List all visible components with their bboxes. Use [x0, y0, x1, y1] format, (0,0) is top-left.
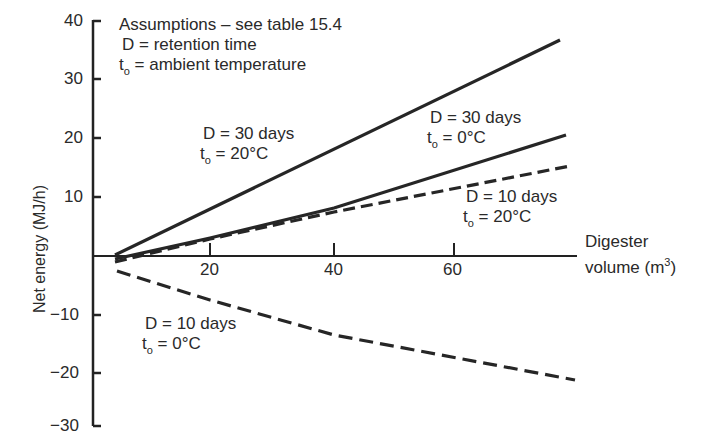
x-tick-40: 40	[324, 260, 343, 280]
label-10d-0c: D = 10 days to = 0°C	[145, 314, 236, 355]
y-tick-minus-20: −20	[50, 363, 79, 383]
y-tick-30: 30	[64, 69, 83, 89]
y-tick-20: 20	[64, 128, 83, 148]
x-axis-label-line2: volume (m	[585, 258, 664, 277]
assumptions-note: Assumptions – see table 15.4 D = retenti…	[119, 15, 342, 76]
label-30d-0c: D = 30 days to = 0°C	[430, 108, 521, 149]
x-axis-label-end: )	[670, 258, 676, 277]
y-tick-minus-30: −30	[50, 416, 79, 436]
x-axis-label-line1: Digester	[585, 232, 648, 251]
x-axis-ticks	[210, 243, 454, 256]
assumptions-line1: Assumptions – see table 15.4	[119, 15, 342, 35]
x-tick-20: 20	[200, 260, 219, 280]
assumptions-line3: to = ambient temperature	[119, 55, 342, 76]
y-tick-10: 10	[64, 187, 83, 207]
label-30d-20c: D = 30 days to = 20°C	[203, 124, 294, 165]
label-10d-20c: D = 10 days to = 20°C	[466, 187, 557, 228]
x-axis-label: Digester volume (m3)	[585, 232, 676, 278]
chart-plot	[0, 0, 711, 445]
y-axis-label: Net energy (MJ/h)	[31, 179, 49, 319]
assumptions-line2: D = retention time	[119, 35, 342, 55]
y-tick-40: 40	[64, 11, 83, 31]
x-tick-60: 60	[443, 260, 462, 280]
y-tick-minus-10: −10	[50, 305, 79, 325]
